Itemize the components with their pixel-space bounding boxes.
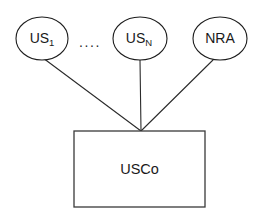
- edge-nra-to-usco: [141, 58, 215, 131]
- node-usn[interactable]: USN: [113, 17, 167, 60]
- node-usco[interactable]: USCo: [74, 131, 205, 207]
- node-usn-label-base: US: [126, 30, 145, 46]
- node-usn-label-subscript: N: [145, 37, 152, 48]
- node-us1[interactable]: US1: [16, 17, 68, 60]
- edge-us1-to-usco: [43, 58, 141, 131]
- node-nra[interactable]: NRA: [193, 17, 247, 60]
- diagram-canvas: US1 .... USN NRA USCo: [0, 0, 263, 220]
- node-nra-label: NRA: [205, 30, 235, 46]
- diagram-svg: US1 .... USN NRA USCo: [0, 0, 263, 220]
- node-us1-label-subscript: 1: [49, 37, 54, 48]
- node-usco-label: USCo: [120, 161, 159, 177]
- ellipsis-dots: ....: [79, 34, 101, 50]
- node-us1-label-base: US: [30, 30, 49, 46]
- edge-usn-to-usco: [140, 60, 141, 131]
